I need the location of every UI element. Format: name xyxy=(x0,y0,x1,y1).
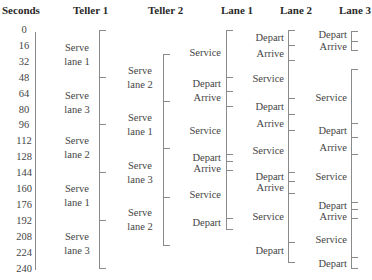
lane1-tick xyxy=(226,218,233,219)
teller1-label: Serve lane 1 xyxy=(58,42,96,67)
lane1-header: Lane 1 xyxy=(221,4,253,16)
teller2-header: Teller 2 xyxy=(148,4,183,16)
lane3-label: Depart xyxy=(318,125,347,136)
teller2-label: Serve lane 2 xyxy=(120,65,160,90)
teller1-tick xyxy=(99,30,106,31)
lane3-tick xyxy=(351,41,358,42)
seconds-tick: 64 xyxy=(0,88,48,99)
seconds-header: Seconds xyxy=(2,4,40,16)
teller1-label-line1: Serve xyxy=(58,90,96,101)
seconds-axis-line xyxy=(35,32,36,270)
seconds-tick: 144 xyxy=(0,167,48,178)
lane3-label: Arrive xyxy=(320,142,347,153)
lane2-label: Arrive xyxy=(257,48,284,59)
lane1-tick xyxy=(226,30,233,31)
lane1-axis-line xyxy=(226,30,227,229)
lane2-tick xyxy=(288,242,295,243)
teller1-label-line2: lane 1 xyxy=(58,197,96,208)
teller2-label: Serve lane 3 xyxy=(120,160,160,185)
teller1-label-line2: lane 3 xyxy=(58,104,96,115)
teller1-label-line2: lane 1 xyxy=(58,56,96,67)
lane2-label: Service xyxy=(253,211,285,222)
lane3-tick xyxy=(351,31,358,32)
teller1-tick xyxy=(99,124,106,125)
teller2-label: Serve lane 2 xyxy=(120,207,160,232)
teller2-tick xyxy=(163,54,170,55)
teller1-label: Serve lane 3 xyxy=(58,231,96,256)
lane2-tick xyxy=(288,172,295,173)
lane2-tick xyxy=(288,45,295,46)
lane3-tick xyxy=(351,154,358,155)
teller1-label: Serve lane 1 xyxy=(58,183,96,208)
lane2-label: Arrive xyxy=(257,118,284,129)
seconds-tick: 32 xyxy=(0,56,48,67)
lane3-label: Arrive xyxy=(320,211,347,222)
teller2-label-line2: lane 1 xyxy=(120,126,160,137)
seconds-tick: 224 xyxy=(0,247,48,258)
lane1-label: Service xyxy=(190,125,222,136)
lane2-header: Lane 2 xyxy=(280,4,312,16)
lane2-label: Service xyxy=(253,73,285,84)
lane3-tick xyxy=(351,257,358,258)
lane2-tick xyxy=(288,181,295,182)
seconds-tick: 192 xyxy=(0,215,48,226)
seconds-tick: 48 xyxy=(0,72,48,83)
lane3-label: Service xyxy=(316,234,348,245)
lane2-tick xyxy=(288,114,295,115)
lane2-tick xyxy=(288,193,295,194)
lane2-label: Depart xyxy=(255,245,284,256)
teller2-label-line1: Serve xyxy=(120,112,160,123)
seconds-tick: 80 xyxy=(0,104,48,115)
seconds-tick: 208 xyxy=(0,231,48,242)
lane1-label: Service xyxy=(190,189,222,200)
teller1-label-line2: lane 2 xyxy=(58,149,96,160)
teller2-label-line1: Serve xyxy=(120,65,160,76)
lane1-tick xyxy=(226,229,233,230)
lane3-label: Depart xyxy=(318,258,347,269)
seconds-tick: 240 xyxy=(0,263,48,274)
lane1-tick xyxy=(226,161,233,162)
lane1-label: Arrive xyxy=(194,163,221,174)
lane1-tick xyxy=(226,106,233,107)
teller2-label-line1: Serve xyxy=(120,160,160,171)
teller2-label: Serve lane 1 xyxy=(120,112,160,137)
lane3-tick xyxy=(351,69,358,70)
lane3-tick xyxy=(351,218,358,219)
lane2-label: Depart xyxy=(255,171,284,182)
teller1-label: Serve lane 3 xyxy=(58,90,96,115)
lane1-tick xyxy=(226,154,233,155)
lane1-tick xyxy=(226,170,233,171)
teller1-label-line1: Serve xyxy=(58,42,96,53)
teller2-tick xyxy=(163,245,170,246)
lane3-label: Depart xyxy=(318,29,347,40)
lane3-tick xyxy=(351,202,358,203)
teller2-tick xyxy=(163,197,170,198)
lane1-tick xyxy=(226,77,233,78)
teller2-tick xyxy=(163,148,170,149)
lane2-tick xyxy=(288,262,295,263)
lane3-tick xyxy=(351,209,358,210)
seconds-tick: 96 xyxy=(0,119,48,130)
seconds-tick: 112 xyxy=(0,135,48,146)
teller2-tick xyxy=(163,101,170,102)
lane2-label: Service xyxy=(253,145,285,156)
teller1-label-line1: Serve xyxy=(58,231,96,242)
teller2-label-line2: lane 2 xyxy=(120,79,160,90)
lane2-tick xyxy=(288,60,295,61)
teller1-label-line1: Serve xyxy=(58,183,96,194)
lane3-tick xyxy=(351,50,358,51)
teller1-label: Serve lane 2 xyxy=(58,135,96,160)
lane1-label: Depart xyxy=(192,152,221,163)
lane1-label: Arrive xyxy=(194,92,221,103)
lane1-label: Depart xyxy=(192,78,221,89)
lane3-label: Arrive xyxy=(320,41,347,52)
lane3-label: Service xyxy=(316,92,348,103)
lane3-tick xyxy=(351,137,358,138)
teller1-header: Teller 1 xyxy=(73,4,108,16)
teller1-tick xyxy=(99,268,106,269)
lane2-label: Depart xyxy=(255,32,284,43)
teller1-tick xyxy=(99,220,106,221)
teller2-label-line2: lane 3 xyxy=(120,174,160,185)
lane2-tick xyxy=(288,30,295,31)
seconds-tick: 0 xyxy=(0,24,48,35)
